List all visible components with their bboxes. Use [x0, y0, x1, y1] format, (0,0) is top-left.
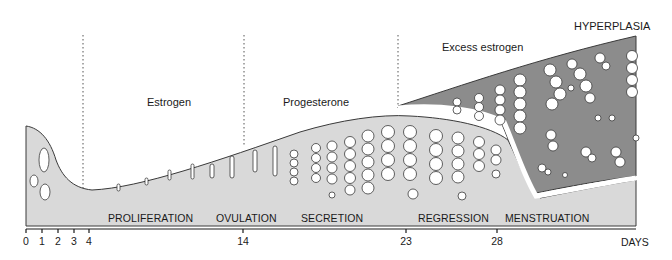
phase-label-menstruation: MENSTRUATION [505, 213, 589, 224]
tick-label-day-3: 3 [71, 236, 77, 247]
tick-label-day-1: 1 [39, 236, 45, 247]
phase-label-proliferation: PROLIFERATION [108, 213, 193, 224]
tick-label-day-0: 0 [23, 236, 29, 247]
excess-estrogen-label: Excess estrogen [442, 42, 523, 53]
estrogen-label: Estrogen [147, 97, 191, 108]
endometrial-cycle-diagram: Estrogen Progesterone Excess estrogen HY… [0, 0, 672, 260]
tick-label-day-23: 23 [400, 236, 412, 247]
tick-label-day-2: 2 [55, 236, 61, 247]
time-axis [26, 229, 636, 233]
hyperplasia-label: HYPERPLASIA [574, 21, 650, 32]
phase-label-ovulation: OVULATION [216, 213, 277, 224]
progesterone-label: Progesterone [283, 97, 349, 108]
tick-label-day-28: 28 [491, 236, 503, 247]
phase-label-regression: REGRESSION [418, 213, 489, 224]
tick-label-day-4: 4 [86, 236, 92, 247]
tick-label-day-14: 14 [237, 236, 249, 247]
axis-unit-label: DAYS [621, 237, 649, 248]
phase-label-secretion: SECRETION [301, 213, 363, 224]
